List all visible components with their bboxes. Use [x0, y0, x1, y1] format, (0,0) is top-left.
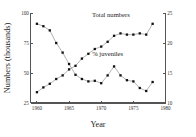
series-total-numbers — [36, 23, 154, 94]
chart-series — [36, 23, 154, 94]
y-tick-label-right: 25 — [167, 10, 173, 16]
data-point — [113, 35, 115, 37]
x-tick-label: 1980 — [160, 105, 171, 111]
data-point — [68, 63, 70, 65]
data-point — [139, 87, 141, 89]
data-point — [151, 81, 153, 83]
x-tick-label: 1960 — [32, 105, 43, 111]
y-tick-label-left: 100 — [21, 10, 29, 16]
x-axis-title: Year — [90, 120, 105, 129]
data-point — [145, 33, 147, 35]
data-point — [61, 74, 63, 76]
data-point — [139, 32, 141, 34]
y-tick-label-right: 15 — [167, 70, 173, 76]
series-juveniles — [36, 23, 154, 93]
data-point — [126, 33, 128, 35]
data-point — [42, 25, 44, 27]
y-tick-label-right: 20 — [167, 40, 173, 46]
data-point — [49, 83, 51, 85]
chart-labels: Total numbers% juvenilesYearNumbers (tho… — [3, 11, 131, 129]
data-point — [68, 68, 70, 70]
data-point — [61, 51, 63, 53]
data-point — [81, 57, 83, 59]
data-point — [81, 78, 83, 80]
y-axis-title: Numbers (thousands) — [3, 23, 12, 94]
data-point — [55, 42, 57, 44]
data-point — [106, 74, 108, 76]
x-tick-label: 1965 — [64, 105, 75, 111]
chart-container: 2550751001015202519601965197019751980 To… — [0, 0, 196, 137]
data-point — [74, 65, 76, 67]
x-tick-label: 1975 — [128, 105, 139, 111]
data-point — [87, 53, 89, 55]
chart-ticks: 2550751001015202519601965197019751980 — [21, 10, 173, 111]
chart-axes — [31, 13, 166, 103]
data-point — [132, 80, 134, 82]
data-point — [55, 78, 57, 80]
data-point — [132, 33, 134, 35]
data-point — [74, 74, 76, 76]
data-point — [126, 79, 128, 81]
data-point — [36, 23, 38, 25]
data-point — [100, 45, 102, 47]
data-point — [145, 90, 147, 92]
data-point — [36, 91, 38, 93]
data-point — [49, 29, 51, 31]
series-annotation-total-numbers: Total numbers — [92, 11, 130, 18]
data-point — [151, 23, 153, 25]
data-point — [119, 74, 121, 76]
data-point — [113, 65, 115, 67]
data-point — [119, 32, 121, 34]
data-point — [94, 80, 96, 82]
y-tick-label-left: 25 — [24, 100, 30, 106]
x-tick-label: 1970 — [96, 105, 107, 111]
series-annotation-juveniles: % juveniles — [92, 50, 123, 57]
y-tick-label-left: 50 — [24, 70, 30, 76]
data-point — [87, 80, 89, 82]
y-tick-label-left: 75 — [24, 40, 30, 46]
data-point — [42, 86, 44, 88]
data-point — [100, 82, 102, 84]
data-point — [106, 41, 108, 43]
line-chart: 2550751001015202519601965197019751980 To… — [0, 0, 196, 137]
